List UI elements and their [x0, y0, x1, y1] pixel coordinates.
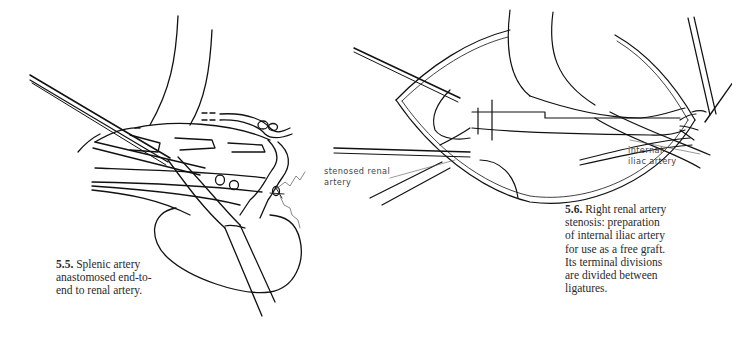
caption-line: of internal iliac artery [565, 229, 730, 242]
caption-line: anastomosed end-to- [56, 271, 186, 284]
caption-line: stenosis: preparation [565, 216, 730, 229]
caption-line: Its terminal divisions [565, 256, 730, 269]
figure-number: 5.6. [565, 203, 582, 215]
figure-5-5-caption: 5.5. Splenic artery anastomosed end-to- … [56, 258, 186, 298]
figure-number: 5.5. [56, 258, 73, 270]
caption-line: Splenic artery [76, 258, 140, 270]
label-line: stenosed renal [324, 166, 390, 177]
label-line: artery [324, 177, 390, 188]
label-line: iliac artery [628, 156, 677, 167]
caption-line: are divided between [565, 269, 730, 282]
internal-iliac-artery-label: internal iliac artery [628, 145, 677, 167]
stenosed-renal-artery-label: stenosed renal artery [324, 166, 390, 188]
caption-line: ligatures. [565, 282, 730, 295]
caption-line: for use as a free graft. [565, 243, 730, 256]
figure-5-6-caption: 5.6. Right renal artery stenosis: prepar… [565, 203, 730, 295]
caption-line: end to renal artery. [56, 284, 186, 297]
label-line: internal [628, 145, 677, 156]
caption-line: Right renal artery [585, 203, 666, 215]
